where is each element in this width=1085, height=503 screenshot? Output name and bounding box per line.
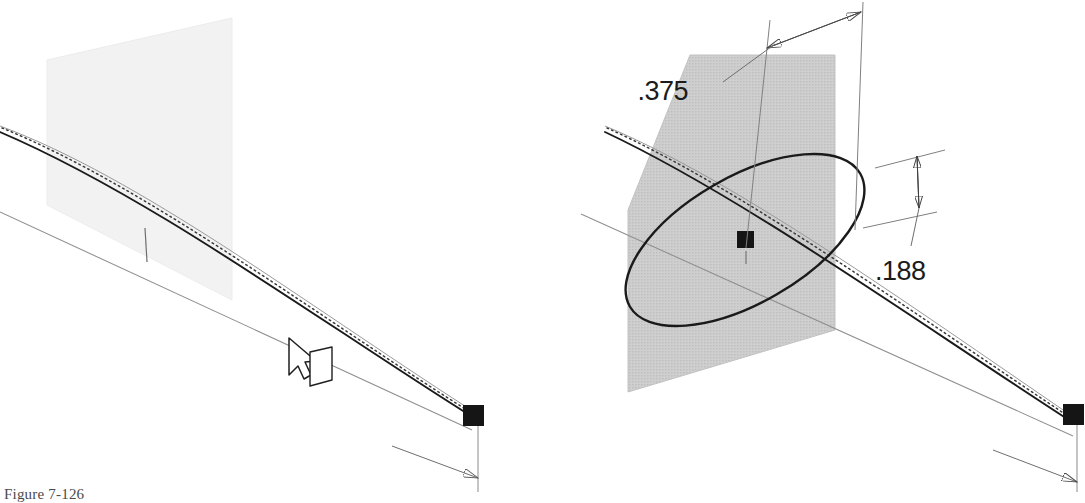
lower-guide-line — [0, 212, 472, 430]
dim-vertical-leader — [911, 208, 919, 246]
cursor-plane-glyph-icon — [310, 347, 332, 386]
bottom-dim-line — [392, 446, 478, 478]
dim-horizontal-line-rev — [767, 12, 861, 48]
figure-caption: Figure 7-126 — [4, 486, 84, 503]
curve-endpoint[interactable] — [1063, 404, 1084, 425]
dim-horizontal-value[interactable]: .375 — [637, 76, 688, 106]
right-viewport-canvas: .375 .188 — [545, 0, 1085, 499]
curve-endpoint[interactable] — [463, 405, 484, 426]
dim-vertical-line-down — [917, 156, 919, 208]
dim-vertical-extension-bottom — [863, 212, 937, 228]
left-viewport-canvas — [0, 0, 540, 499]
circle-center-point[interactable] — [737, 231, 754, 248]
dim-horizontal-extension-right — [855, 2, 863, 230]
left-viewport: Figure 7-126 — [0, 0, 540, 499]
dim-vertical-value[interactable]: .188 — [875, 256, 926, 286]
right-viewport: .375 .188 — [545, 0, 1085, 499]
bottom-dim-line — [993, 450, 1077, 482]
plane-select-cursor[interactable] — [289, 338, 332, 386]
dim-vertical-extension-top — [875, 150, 945, 168]
